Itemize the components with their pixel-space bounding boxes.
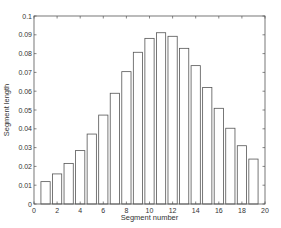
x-tick-label: 4: [78, 207, 82, 214]
bar-1: [41, 182, 50, 204]
x-tick-label: 2: [55, 207, 59, 214]
y-tick-label: 0.04: [18, 125, 32, 132]
bar-13: [180, 48, 189, 204]
y-tick-label: 0.09: [18, 31, 32, 38]
bar-17: [226, 128, 235, 204]
x-tick-label: 16: [215, 207, 223, 214]
bar-19: [249, 159, 258, 204]
bar-3: [64, 163, 73, 204]
x-tick-label: 6: [101, 207, 105, 214]
y-tick-label: 0.01: [18, 182, 32, 189]
y-tick-label: 0.03: [18, 144, 32, 151]
bar-14: [191, 66, 200, 204]
bar-11: [156, 33, 165, 204]
x-tick-label: 20: [261, 207, 269, 214]
bar-8: [122, 72, 131, 204]
y-tick-label: 0: [28, 201, 32, 208]
bar-2: [52, 174, 61, 204]
bar-15: [203, 87, 212, 204]
bar-7: [110, 93, 119, 204]
x-axis-label: Segment number: [121, 213, 179, 222]
y-axis-label: Segment length: [2, 84, 11, 137]
bar-16: [214, 108, 223, 204]
bar-9: [133, 52, 142, 204]
y-tick-label: 0.05: [18, 107, 32, 114]
bar-5: [87, 134, 96, 204]
bars-group: [41, 33, 258, 204]
y-tick-label: 0.02: [18, 163, 32, 170]
x-tick-label: 0: [32, 207, 36, 214]
x-tick-label: 18: [238, 207, 246, 214]
bar-12: [168, 36, 177, 204]
y-tick-label: 0.08: [18, 50, 32, 57]
bar-chart: 02468101214161820 00.010.020.030.040.050…: [0, 0, 281, 228]
bar-10: [145, 38, 154, 204]
bar-6: [99, 115, 108, 204]
y-tick-label: 0.07: [18, 69, 32, 76]
bar-4: [76, 151, 85, 204]
y-tick-label: 0.1: [22, 13, 32, 20]
x-tick-label: 14: [192, 207, 200, 214]
bar-18: [237, 146, 246, 204]
y-tick-label: 0.06: [18, 88, 32, 95]
